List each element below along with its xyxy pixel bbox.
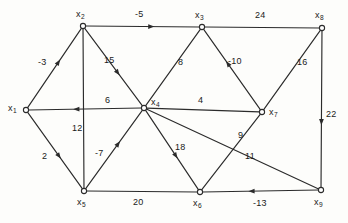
edge-weight-label-x3-x8: 24 xyxy=(255,11,266,20)
graph-edge-x2-x4 xyxy=(85,28,143,106)
edge-weight-label-x4-x3: 8 xyxy=(178,58,183,67)
arrowhead-x5-x4 xyxy=(114,141,120,147)
node-label-x7: x7 xyxy=(269,108,278,117)
arrowhead-x1-x2 xyxy=(55,60,60,66)
edge-weight-label-x7-x4: 4 xyxy=(198,96,203,105)
graph-node-x6 xyxy=(197,189,202,194)
node-label-subscript-x5: 5 xyxy=(82,201,86,208)
node-label-base-x9: x xyxy=(314,197,319,207)
graph-node-x4 xyxy=(141,105,146,110)
node-label-subscript-x1: 1 xyxy=(13,107,17,114)
graph-node-x2 xyxy=(80,23,85,28)
graph-diagram: x1x2x3x4x5x6x7x8x9 -32-5151268-102441622… xyxy=(0,0,348,223)
edge-weight-label-x8-x9: 22 xyxy=(326,110,337,119)
edge-weight-label-x5-x4: -7 xyxy=(95,149,104,158)
node-label-x6: x6 xyxy=(193,199,202,208)
edge-weight-label-x4-x1: 6 xyxy=(105,96,110,105)
edge-weight-label-x4-x6: 18 xyxy=(175,143,186,152)
graph-node-x8 xyxy=(319,25,324,30)
edge-weight-label-x1-x2: -3 xyxy=(38,58,47,67)
graph-edge-x3-x8 xyxy=(205,27,320,28)
edge-weight-label-x2-x3: -5 xyxy=(135,10,144,19)
graph-edge-x4-x1 xyxy=(29,108,142,110)
node-label-base-x4: x xyxy=(151,97,156,107)
node-label-x5: x5 xyxy=(77,198,86,207)
graph-node-x7 xyxy=(259,109,264,114)
node-label-x4: x4 xyxy=(151,98,160,107)
graph-edge-x9-x6 xyxy=(203,190,319,192)
graph-node-x9 xyxy=(318,187,323,192)
edge-weight-label-x7-x3: -10 xyxy=(228,57,242,66)
arrowhead-x8-x9 xyxy=(319,119,324,125)
graph-edge-x1-x2 xyxy=(27,28,81,108)
graph-edge-x5-x6 xyxy=(87,191,198,192)
node-label-base-x7: x xyxy=(269,107,274,117)
node-label-subscript-x7: 7 xyxy=(274,111,278,118)
arrowhead-x4-x6 xyxy=(172,152,177,158)
arrowhead-x2-x4 xyxy=(114,69,120,75)
node-label-subscript-x4: 4 xyxy=(156,101,160,108)
node-label-x8: x8 xyxy=(315,11,324,20)
graph-edge-x4-x6 xyxy=(145,110,198,190)
edge-weight-label-x9-x6: -13 xyxy=(253,199,267,208)
graph-node-x3 xyxy=(199,24,204,29)
node-label-base-x5: x xyxy=(77,197,82,207)
arrowhead-x1-x5 xyxy=(55,152,61,158)
node-label-base-x2: x xyxy=(76,9,81,19)
graph-node-x1 xyxy=(23,107,28,112)
edge-weight-label-x7-x8: 16 xyxy=(297,58,308,67)
node-label-x9: x9 xyxy=(314,198,323,207)
node-label-subscript-x8: 8 xyxy=(320,14,324,21)
graph-edge-x7-x8 xyxy=(264,30,321,110)
graph-edge-x4-x3 xyxy=(146,29,201,106)
node-label-x2: x2 xyxy=(76,10,85,19)
node-label-subscript-x3: 3 xyxy=(200,14,204,21)
node-label-x1: x1 xyxy=(8,104,17,113)
graph-edge-x2-x3 xyxy=(86,26,200,27)
edge-weight-label-x2-x5: 12 xyxy=(72,124,83,133)
edge-weight-label-x2-x4: 15 xyxy=(104,56,115,65)
edges-layer xyxy=(27,26,322,192)
arrowhead-x2-x3 xyxy=(148,24,154,29)
node-label-subscript-x9: 9 xyxy=(319,201,323,208)
node-label-x3: x3 xyxy=(195,11,204,20)
graph-edge-x4-x9 xyxy=(146,109,318,189)
graph-edge-x8-x9 xyxy=(321,31,322,188)
graph-node-x5 xyxy=(81,188,86,193)
edge-weight-label-x4-x9: 11 xyxy=(245,152,255,161)
graph-edge-x7-x4 xyxy=(147,108,260,112)
node-label-subscript-x2: 2 xyxy=(81,13,85,20)
graph-canvas xyxy=(0,0,348,223)
edge-weight-label-x1-x5: 2 xyxy=(42,152,47,161)
graph-edge-x7-x3 xyxy=(203,29,260,110)
node-label-base-x1: x xyxy=(8,103,13,113)
node-label-subscript-x6: 6 xyxy=(198,202,202,209)
node-label-base-x3: x xyxy=(195,10,200,20)
node-label-base-x8: x xyxy=(315,10,320,20)
arrowhead-x4-x1 xyxy=(73,107,79,112)
edge-weight-label-x6-x7: 9 xyxy=(238,131,243,140)
edge-weight-label-x5-x6: 20 xyxy=(133,198,144,207)
arrowhead-x9-x6 xyxy=(248,189,254,194)
node-label-base-x6: x xyxy=(193,198,198,208)
